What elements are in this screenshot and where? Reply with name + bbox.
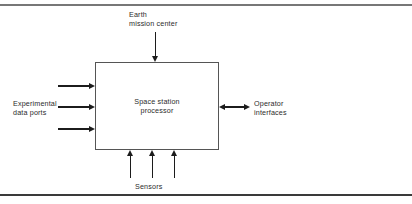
- sensors-arrowhead-1-up-icon: [127, 150, 133, 156]
- experimental-data-ports-arrow-3-shaft: [58, 128, 91, 129]
- label-experimental-data-ports: Experimental data ports: [13, 99, 57, 118]
- experimental-data-ports-arrow-1-shaft: [58, 85, 91, 86]
- operator-interfaces-arrow-shaft: [222, 106, 246, 107]
- sensors-arrowhead-3-up-icon: [171, 150, 177, 156]
- sensors-arrow-1-shaft: [130, 156, 131, 178]
- operator-interfaces-arrowhead-right-icon: [244, 104, 250, 110]
- experimental-data-ports-arrow-2-shaft: [58, 106, 91, 107]
- sensors-arrowhead-2-up-icon: [149, 150, 155, 156]
- label-operator-interfaces: Operator interfaces: [254, 99, 287, 118]
- frame-rule-top: [0, 4, 412, 6]
- operator-interfaces-arrowhead-left-icon: [219, 104, 225, 110]
- frame-rule-bottom: [0, 194, 412, 196]
- earth-mission-center-arrow-shaft: [155, 32, 156, 58]
- process-box-space-station-processor: Space station processor: [95, 62, 219, 150]
- label-sensors: Sensors: [135, 182, 162, 191]
- context-diagram: Earth mission center Experimental data p…: [0, 0, 412, 204]
- sensors-arrow-3-shaft: [174, 156, 175, 178]
- process-box-label: Space station processor: [96, 97, 218, 116]
- sensors-arrow-2-shaft: [152, 156, 153, 178]
- label-earth-mission-center: Earth mission center: [129, 10, 177, 29]
